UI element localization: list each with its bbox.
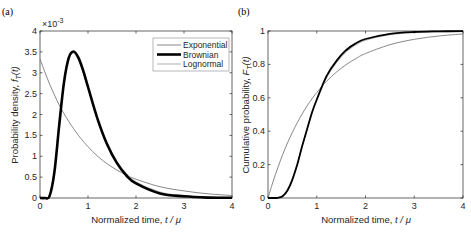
y-tick-label: 4 [32, 26, 37, 36]
series-lognormal-line [40, 53, 232, 198]
y-tick-label: 0.6 [252, 93, 265, 103]
panel-label-a: (a) [2, 6, 13, 18]
y-tick-label: 0 [260, 193, 265, 203]
panel-label-b: (b) [238, 6, 250, 18]
x-tick-label: 3 [412, 201, 417, 211]
y-tick-label: 2.5 [24, 89, 37, 99]
panel-a-curves [40, 52, 232, 199]
y-tick-label: 3.5 [24, 47, 37, 57]
figure: (a) (b) 0123400.511.522.533.54 ×10-3 Exp… [0, 0, 471, 235]
panel-b-frame [268, 31, 463, 198]
y-tick-label: 0 [32, 193, 37, 203]
legend-label-brownian: Brownian [183, 50, 219, 60]
y-tick-label: 0.8 [252, 59, 265, 69]
series-lognormal-line [268, 31, 463, 198]
series-exponential-line [40, 59, 232, 196]
series-exponential-line [268, 34, 463, 198]
x-axis-label-b: Normalized time, t / μ [321, 214, 411, 225]
y-tick-label: 0.5 [24, 172, 37, 182]
y-axis-label-b: Cumulative probability, FT(t) [240, 56, 253, 173]
series-brownian-line [268, 31, 463, 198]
x-tick-label: 2 [133, 201, 138, 211]
legend: Exponential Brownian Lognormal [153, 38, 229, 71]
y-tick-label: 1 [32, 151, 37, 161]
y-axis-label-a: Probability density, fT(t) [9, 66, 22, 164]
x-tick-label: 2 [363, 201, 368, 211]
x-tick-label: 0 [265, 201, 270, 211]
y-tick-label: 1.5 [24, 130, 37, 140]
x-tick-label: 4 [229, 201, 234, 211]
panel-b-axes: 0123400.20.40.60.81 [252, 26, 465, 211]
y-tick-label: 0.2 [252, 160, 265, 170]
x-tick-label: 0 [37, 201, 42, 211]
y-exponent-label: ×10-3 [42, 17, 64, 29]
panel-b-curves [268, 31, 463, 198]
y-tick-label: 0.4 [252, 126, 265, 136]
x-axis-label-a: Normalized time, t / μ [91, 214, 181, 225]
series-brownian-line [40, 52, 232, 199]
x-tick-label: 3 [181, 201, 186, 211]
legend-label-lognormal: Lognormal [183, 59, 223, 69]
legend-label-exponential: Exponential [183, 40, 228, 50]
x-tick-label: 1 [85, 201, 90, 211]
y-tick-label: 1 [260, 26, 265, 36]
y-tick-label: 3 [32, 68, 37, 78]
x-tick-label: 4 [460, 201, 465, 211]
y-tick-label: 2 [32, 110, 37, 120]
x-tick-label: 1 [314, 201, 319, 211]
